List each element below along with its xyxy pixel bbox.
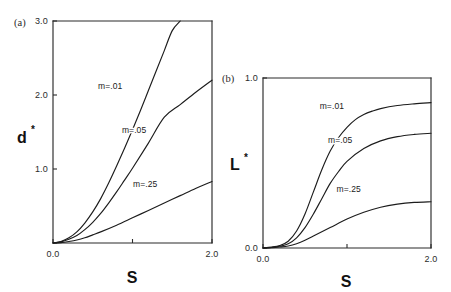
y-tick-label-0: 0.0 (245, 243, 258, 253)
x-axis-title-panel-a: S (127, 269, 138, 286)
y-axis-title-star-panel-b: * (244, 152, 248, 163)
y-tick-label-1: 1.0 (245, 73, 258, 83)
curve-m05 (53, 80, 212, 243)
curve-annotation-0: m=.01 (320, 101, 345, 111)
curve-annotation-2: m=.25 (336, 184, 361, 194)
figure-container: (a)0.02.01.02.03.0m=.01m=.01m=.05m=.05m=… (0, 0, 451, 292)
x-tick-label-2: 2.0 (424, 254, 437, 264)
y-tick-label-2: 2.0 (35, 90, 48, 100)
y-tick-label-3: 3.0 (35, 16, 48, 26)
y-axis-title-panel-a: d (17, 129, 27, 146)
chart-panel-a: (a)0.02.01.02.03.0m=.01m=.01m=.05m=.05m=… (14, 16, 219, 286)
panel-tag-panel-b: (b) (222, 73, 235, 85)
y-axis-title-star-panel-a: * (31, 124, 35, 135)
x-axis-title-panel-b: S (341, 273, 352, 290)
curve-m01 (263, 103, 431, 248)
y-tick-label-1: 1.0 (35, 164, 48, 174)
curve-annotation-2: m=.25 (133, 179, 158, 189)
curve-m25 (53, 182, 212, 243)
figure-svg: (a)0.02.01.02.03.0m=.01m=.01m=.05m=.05m=… (0, 0, 451, 292)
x-tick-label-0: 0.0 (256, 254, 269, 264)
x-tick-label-2: 2.0 (205, 249, 218, 259)
chart-panel-b: (b)0.02.00.01.0m=.01m=.01m=.05m=.05m=.25… (222, 73, 438, 290)
panel-tag-panel-a: (a) (14, 17, 26, 29)
curve-annotation-1: m=.05 (122, 125, 147, 135)
curve-m01 (53, 21, 180, 243)
x-tick-label-0: 0.0 (46, 249, 59, 259)
y-axis-title-panel-b: L (230, 156, 240, 173)
axis-frame (263, 78, 431, 248)
curve-annotation-1: m=.05 (328, 135, 353, 145)
curve-annotation-0: m=.01 (98, 81, 123, 91)
